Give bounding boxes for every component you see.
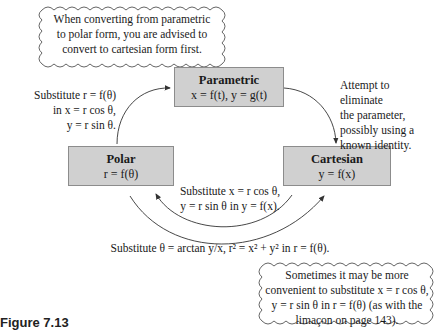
bottom-cloud-note: Sometimes it may be more convenient to s… [262, 268, 432, 328]
top-cloud-line: convert to cartesian form first. [44, 42, 220, 57]
parametric-box: Parametric x = f(t), y = g(t) [174, 67, 284, 107]
figure-caption: Figure 7.13 [0, 315, 69, 330]
note-parametric-to-cartesian: Attempt to eliminate the parameter, poss… [340, 78, 435, 153]
note-line: y = r sin θ in y = f(x). [170, 199, 290, 214]
note-cartesian-to-polar: Substitute x = r cos θ, y = r sin θ in y… [170, 184, 290, 214]
bottom-cloud-line: convenient to substitute x = r cos θ, [262, 283, 432, 298]
note-line: Attempt to eliminate [340, 78, 435, 108]
parametric-title: Parametric [175, 73, 283, 88]
polar-title: Polar [69, 152, 173, 167]
note-line: known identity. [340, 138, 435, 153]
note-line: Substitute x = r cos θ, [170, 184, 290, 199]
note-line: possibly using a [340, 123, 435, 138]
bottom-cloud-line: Sometimes it may be more [262, 268, 432, 283]
bottom-cloud-line: limaçon on page 143). [262, 313, 432, 328]
note-line: y = r sin θ. [20, 118, 116, 133]
top-cloud-line: When converting from parametric [44, 12, 220, 27]
top-cloud-note: When converting from parametric to polar… [44, 12, 220, 57]
parametric-equation: x = f(t), y = g(t) [175, 88, 283, 103]
polar-equation: r = f(θ) [69, 167, 173, 182]
arrow-polar-to-parametric [117, 88, 170, 144]
bottom-cloud-line: y = r sin θ in r = f(θ) (as with the [262, 298, 432, 313]
note-polar-to-parametric: Substitute r = f(θ) in x = r cos θ, y = … [20, 88, 116, 133]
arrow-parametric-to-cartesian [284, 88, 336, 143]
note-line: in x = r cos θ, [20, 103, 116, 118]
cartesian-title: Cartesian [284, 152, 390, 167]
note-line: the parameter, [340, 108, 435, 123]
cartesian-equation: y = f(x) [284, 167, 390, 182]
top-cloud-line: to polar form, you are advised to [44, 27, 220, 42]
note-line: Substitute r = f(θ) [20, 88, 116, 103]
polar-box: Polar r = f(θ) [68, 146, 174, 186]
note-polar-to-cartesian: Substitute θ = arctan y/x, r² = x² + y² … [40, 241, 400, 256]
